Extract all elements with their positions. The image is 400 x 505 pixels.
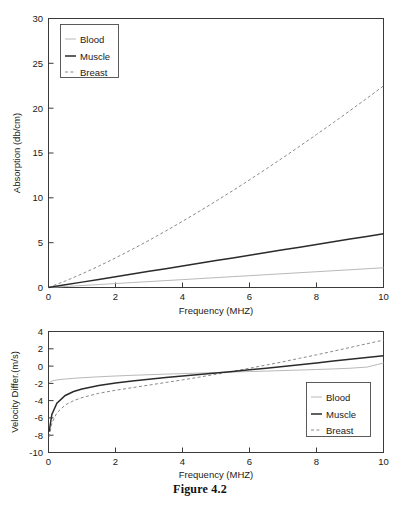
absorption-xtick-0: 0 <box>46 291 51 302</box>
absorption-y-axis: 0 5 10 15 20 25 30 <box>32 13 53 293</box>
absorption-ytick-20: 20 <box>32 103 43 114</box>
velocity-xtick-0: 0 <box>46 456 51 467</box>
absorption-xtick-8: 8 <box>314 291 319 302</box>
absorption-ytick-0: 0 <box>38 282 43 293</box>
velocity-chart-svg: 4 2 0 -2 -4 -6 -8 -10 0 2 4 6 <box>0 320 400 480</box>
velocity-ytick-neg6: -6 <box>35 412 43 423</box>
figure-container: 0 5 10 15 20 25 30 0 2 4 6 8 <box>0 0 400 505</box>
absorption-ytick-10: 10 <box>32 192 43 203</box>
absorption-xtick-10: 10 <box>378 291 389 302</box>
absorption-legend-label-breast: Breast <box>80 67 108 78</box>
absorption-series-breast <box>49 86 384 288</box>
velocity-ytick-neg4: -4 <box>35 395 43 406</box>
velocity-xtick-4: 4 <box>180 456 185 467</box>
velocity-y-axis: 4 2 0 -2 -4 -6 -8 -10 <box>29 326 53 458</box>
absorption-legend[interactable]: Blood Muscle Breast <box>61 25 119 78</box>
absorption-x-axis: 0 2 4 6 8 10 <box>46 283 389 303</box>
absorption-series-muscle <box>49 234 384 288</box>
velocity-xlabel: Frequency (MHZ) <box>179 469 253 480</box>
absorption-xtick-6: 6 <box>247 291 252 302</box>
absorption-ytick-15: 15 <box>32 147 43 158</box>
absorption-ytick-25: 25 <box>32 58 43 69</box>
absorption-series-group <box>49 86 384 288</box>
absorption-legend-label-blood: Blood <box>80 34 104 45</box>
figure-caption: Figure 4.2 <box>0 482 400 497</box>
absorption-legend-label-muscle: Muscle <box>80 51 110 62</box>
absorption-ytick-5: 5 <box>38 237 43 248</box>
velocity-legend-label-blood: Blood <box>326 392 350 403</box>
velocity-ytick-0: 0 <box>38 361 43 372</box>
velocity-legend-label-breast: Breast <box>326 425 354 436</box>
velocity-xtick-8: 8 <box>314 456 319 467</box>
velocity-xtick-10: 10 <box>378 456 389 467</box>
velocity-x-axis: 0 2 4 6 8 10 <box>46 448 389 468</box>
velocity-ytick-neg2: -2 <box>35 378 43 389</box>
velocity-xtick-6: 6 <box>247 456 252 467</box>
velocity-chart-panel: 4 2 0 -2 -4 -6 -8 -10 0 2 4 6 <box>0 320 400 480</box>
velocity-ytick-4: 4 <box>38 326 43 337</box>
velocity-ytick-neg8: -8 <box>35 430 43 441</box>
absorption-xlabel: Frequency (MHZ) <box>179 305 253 316</box>
velocity-legend[interactable]: Blood Muscle Breast <box>307 383 371 437</box>
absorption-xtick-2: 2 <box>113 291 118 302</box>
absorption-series-blood <box>49 268 384 288</box>
velocity-legend-label-muscle: Muscle <box>326 409 356 420</box>
absorption-ytick-30: 30 <box>32 13 43 24</box>
absorption-xtick-4: 4 <box>180 291 185 302</box>
absorption-chart-panel: 0 5 10 15 20 25 30 0 2 4 6 8 <box>0 0 400 320</box>
velocity-ytick-neg10: -10 <box>29 447 43 458</box>
velocity-ylabel: Velocity Differ.(m/s) <box>9 351 20 433</box>
velocity-ytick-2: 2 <box>38 343 43 354</box>
absorption-chart-svg: 0 5 10 15 20 25 30 0 2 4 6 8 <box>0 0 400 320</box>
velocity-xtick-2: 2 <box>113 456 118 467</box>
absorption-ylabel: Absorption (db/cm) <box>11 113 22 193</box>
